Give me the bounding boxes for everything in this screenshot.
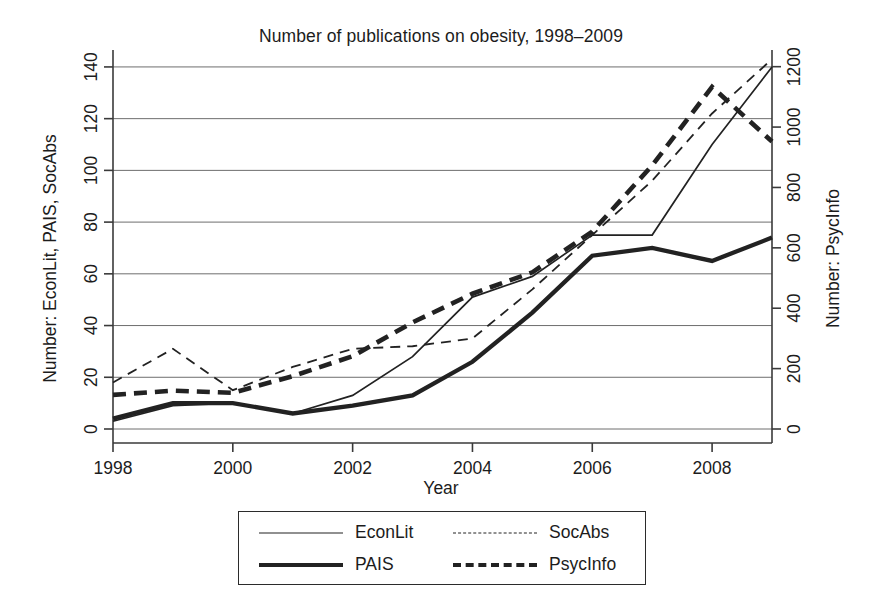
svg-text:2002: 2002 — [333, 458, 372, 478]
svg-text:200: 200 — [784, 354, 804, 383]
legend-key-pais — [259, 556, 343, 574]
svg-text:140: 140 — [81, 52, 101, 81]
solid-thin-line-icon — [259, 532, 343, 533]
series-line-socabs — [113, 59, 772, 390]
y-axis-right-tick-labels: 020040060080010001200 — [784, 47, 804, 434]
series-line-psycinfo — [113, 87, 772, 395]
legend: EconLit SocAbs PAIS PsycInfo — [238, 511, 646, 585]
legend-item-psycinfo: PsycInfo — [453, 554, 616, 575]
svg-text:1000: 1000 — [784, 107, 804, 146]
dashed-thick-line-icon — [453, 563, 537, 567]
legend-item-econlit: EconLit — [259, 522, 413, 543]
y-axis-left-tick-labels: 020406080100120140 — [81, 52, 101, 434]
svg-text:2006: 2006 — [573, 458, 612, 478]
legend-key-econlit — [259, 524, 343, 542]
series-line-pais — [113, 238, 772, 419]
legend-key-socabs — [453, 524, 537, 542]
svg-text:2008: 2008 — [693, 458, 732, 478]
chart-figure: Number of publications on obesity, 1998–… — [0, 0, 882, 606]
svg-text:100: 100 — [81, 156, 101, 185]
svg-text:20: 20 — [81, 367, 101, 387]
series-line-econlit — [113, 67, 772, 421]
svg-text:800: 800 — [784, 173, 804, 202]
legend-item-pais: PAIS — [259, 554, 394, 575]
svg-text:80: 80 — [81, 212, 101, 232]
legend-label-econlit: EconLit — [355, 522, 413, 543]
svg-text:400: 400 — [784, 293, 804, 322]
legend-item-socabs: SocAbs — [453, 522, 609, 543]
solid-thick-line-icon — [259, 563, 343, 567]
svg-text:600: 600 — [784, 233, 804, 262]
dashed-thin-line-icon — [453, 532, 537, 533]
legend-key-psycinfo — [453, 556, 537, 574]
svg-text:1200: 1200 — [784, 47, 804, 86]
legend-label-pais: PAIS — [355, 554, 394, 575]
svg-text:120: 120 — [81, 104, 101, 133]
gridlines — [113, 67, 772, 429]
svg-text:2000: 2000 — [213, 458, 252, 478]
svg-text:0: 0 — [81, 424, 101, 434]
data-series-group — [113, 59, 772, 421]
svg-text:40: 40 — [81, 316, 101, 336]
legend-label-psycinfo: PsycInfo — [549, 554, 616, 575]
x-axis-tick-labels: 199820002002200420062008 — [94, 458, 732, 478]
legend-label-socabs: SocAbs — [549, 522, 609, 543]
svg-text:0: 0 — [784, 424, 804, 434]
svg-text:2004: 2004 — [453, 458, 492, 478]
svg-text:60: 60 — [81, 264, 101, 284]
axis-lines — [113, 50, 772, 443]
svg-text:1998: 1998 — [94, 458, 133, 478]
tick-marks — [104, 67, 781, 452]
